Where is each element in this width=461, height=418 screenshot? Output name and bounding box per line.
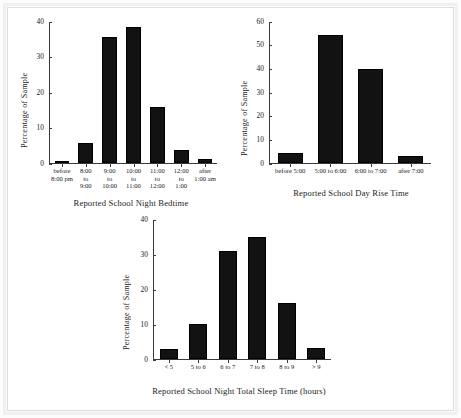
y-tick-label: 30 [37, 52, 44, 61]
chart2-plot-area: 0102030405060 before 5:005:00 to 6:006:0… [269, 22, 431, 164]
bar[interactable] [160, 349, 178, 359]
y-tick-label: 40 [37, 17, 44, 26]
bar-cell [50, 22, 74, 163]
bar[interactable] [358, 69, 383, 163]
x-tick-label: 11:00 to 12:00 [145, 167, 169, 190]
x-tick-label: 5 to 6 [184, 363, 214, 371]
bar[interactable] [150, 107, 165, 163]
bar-cell [270, 22, 310, 163]
bar[interactable] [398, 156, 423, 163]
y-tick-label: 10 [257, 135, 264, 144]
chart2-y-axis-label: Percentage of Sample [240, 34, 249, 156]
y-tick-label: 0 [40, 159, 44, 168]
bar[interactable] [219, 251, 237, 359]
bar[interactable] [126, 27, 141, 163]
x-tick-label: after 1:00 am [193, 167, 217, 190]
bar[interactable] [189, 324, 207, 359]
chart3-x-tick-labels: < 55 to 66 to 77 to 88 to 9> 9 [154, 363, 331, 371]
bar[interactable] [174, 150, 189, 163]
bar[interactable] [278, 303, 296, 359]
bar[interactable] [78, 143, 93, 163]
chart2-bars [270, 22, 431, 163]
bar[interactable] [318, 35, 343, 163]
figure-page: Percentage of Sample 010203040 before 8:… [0, 0, 461, 418]
x-tick-label: < 5 [154, 363, 184, 371]
bar-cell [122, 22, 146, 163]
chart1-y-axis-label: Percentage of Sample [20, 40, 29, 148]
x-tick-label: 8:00 to 9:00 [74, 167, 98, 190]
x-tick-label: before 8:00 pm [50, 167, 74, 190]
y-tick-label: 30 [257, 88, 264, 97]
bar-cell [351, 22, 391, 163]
chart3-plot-area: 010203040 < 55 to 66 to 77 to 88 to 9> 9 [153, 220, 331, 360]
bar[interactable] [55, 161, 70, 163]
bar-cell [145, 22, 169, 163]
chart1-plot-area: 010203040 before 8:00 pm8:00 to 9:009:00… [49, 22, 217, 164]
chart2-x-axis-title: Reported School Day Rise Time [256, 188, 446, 198]
x-tick-label: 10:00 to 11:00 [122, 167, 146, 190]
chart-total-sleep-time: Percentage of Sample 010203040 < 55 to 6… [120, 214, 360, 410]
bar-cell [391, 22, 431, 163]
y-tick-label: 50 [257, 40, 264, 49]
bar-cell [310, 22, 350, 163]
chart1-x-tick-labels: before 8:00 pm8:00 to 9:009:00 to 10:001… [50, 167, 217, 190]
chart3-x-axis-title: Reported School Night Total Sleep Time (… [120, 386, 358, 396]
chart-bedtime: Percentage of Sample 010203040 before 8:… [18, 16, 223, 206]
bar[interactable] [102, 37, 117, 163]
y-tick-label: 10 [37, 123, 44, 132]
y-tick-label: 0 [260, 159, 264, 168]
x-tick-label: 7 to 8 [243, 363, 273, 371]
y-tick-label: 30 [141, 250, 148, 259]
y-tick-label: 20 [257, 111, 264, 120]
y-tick-label: 60 [257, 17, 264, 26]
y-tick-label: 10 [141, 320, 148, 329]
bar-cell [98, 22, 122, 163]
bar-cell [302, 220, 332, 359]
bar[interactable] [198, 159, 213, 163]
chart-rise-time: Percentage of Sample 0102030405060 befor… [238, 16, 443, 206]
bar[interactable] [278, 153, 303, 163]
bar-cell [213, 220, 243, 359]
x-tick-label: 6 to 7 [213, 363, 243, 371]
chart2-x-tick-labels: before 5:005:00 to 6:006:00 to 7:00after… [270, 167, 431, 175]
bar-cell [193, 22, 217, 163]
bar[interactable] [248, 237, 266, 359]
chart3-bars [154, 220, 331, 359]
x-tick-label: 5:00 to 6:00 [310, 167, 350, 175]
x-tick-label: before 5:00 [270, 167, 310, 175]
chart1-x-axis-title: Reported School Night Bedtime [36, 198, 226, 208]
x-tick-label: 6:00 to 7:00 [351, 167, 391, 175]
x-tick-label: 9:00 to 10:00 [98, 167, 122, 190]
x-tick-label: after 7:00 [391, 167, 431, 175]
y-tick-label: 40 [257, 64, 264, 73]
bar-cell [74, 22, 98, 163]
y-tick-label: 20 [37, 88, 44, 97]
chart3-y-axis-label: Percentage of Sample [122, 238, 131, 350]
x-tick-label: 8 to 9 [272, 363, 302, 371]
bar[interactable] [307, 348, 325, 359]
y-tick-label: 40 [141, 215, 148, 224]
x-tick-label: 12:00 to 1:00 [169, 167, 193, 190]
y-tick-label: 20 [141, 285, 148, 294]
x-tick-label: > 9 [302, 363, 332, 371]
bar-cell [272, 220, 302, 359]
y-tick-label: 0 [144, 355, 148, 364]
bar-cell [243, 220, 273, 359]
bar-cell [169, 22, 193, 163]
bar-cell [184, 220, 214, 359]
chart1-bars [50, 22, 217, 163]
bar-cell [154, 220, 184, 359]
